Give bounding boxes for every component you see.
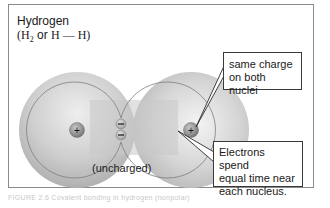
figure-caption: FIGURE 2.6 Covalent bonding in hydrogen …	[8, 194, 190, 201]
formula-element: H	[21, 28, 30, 42]
callout-text-line: each nucleus.	[219, 185, 297, 198]
svg-text:+: +	[188, 125, 194, 136]
formula-close-paren: )	[86, 28, 90, 42]
svg-text:+: +	[74, 125, 80, 136]
formula-bond: H — H	[51, 28, 86, 42]
formula-conjunction: or	[34, 28, 51, 42]
electron-2	[116, 130, 126, 140]
figure-title: Hydrogen	[17, 14, 69, 28]
nucleus-left: +	[70, 123, 85, 138]
callout-text-line: on both nuclei	[229, 71, 296, 97]
callout-text-line: Electrons spend	[219, 146, 297, 172]
callout-text-line: same charge	[229, 58, 296, 71]
uncharged-label: (uncharged)	[92, 162, 151, 174]
electron-1	[116, 119, 126, 129]
chemical-formula: (H2 or H — H)	[17, 28, 90, 47]
callout-text-line: equal time near	[219, 172, 297, 185]
callout-electrons-spend: Electrons spend equal time near each nuc…	[213, 141, 303, 187]
callout-same-charge: same charge on both nuclei	[223, 52, 302, 90]
